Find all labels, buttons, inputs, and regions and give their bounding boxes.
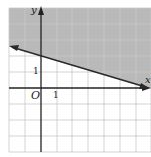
x-axis-label: x <box>145 74 151 85</box>
coordinate-plane <box>0 0 151 157</box>
y-axis-label: y <box>31 4 37 15</box>
line-left-arrow-icon <box>9 45 19 51</box>
x-tick-label: 1 <box>53 90 59 100</box>
y-tick-label: 1 <box>33 66 39 76</box>
shaded-region <box>9 8 151 88</box>
origin-label: O <box>31 89 40 102</box>
